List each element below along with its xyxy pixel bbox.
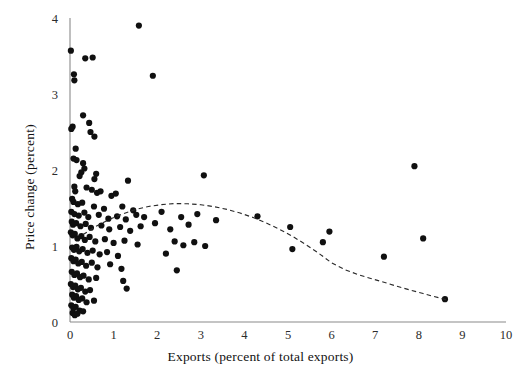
data-point	[89, 187, 95, 193]
data-point	[74, 311, 80, 317]
scatter-plot-figure: 01234 012345678910 Exports (percent of t…	[0, 0, 521, 379]
data-point	[91, 298, 97, 304]
data-point	[134, 241, 140, 247]
data-point	[127, 228, 133, 234]
y-tick-label: 1	[52, 240, 58, 254]
y-tick-label: 0	[52, 316, 58, 330]
x-tick-label: 9	[459, 328, 465, 342]
data-point	[287, 224, 293, 230]
data-point	[79, 200, 85, 206]
data-point	[85, 214, 91, 220]
data-point	[138, 223, 144, 229]
data-point	[87, 234, 93, 240]
data-point	[167, 226, 173, 232]
y-axis-tick-labels: 01234	[52, 12, 59, 330]
data-point	[115, 253, 121, 259]
data-point	[124, 285, 130, 291]
x-tick-label: 0	[67, 328, 73, 342]
data-point	[80, 160, 86, 166]
data-point	[381, 254, 387, 260]
data-point	[68, 126, 74, 132]
data-point	[202, 243, 208, 249]
data-point	[93, 275, 99, 281]
data-point	[172, 238, 178, 244]
x-axis-tick-labels: 012345678910	[67, 328, 512, 342]
x-tick-label: 2	[154, 328, 160, 342]
y-tick-label: 4	[52, 12, 59, 26]
data-point	[326, 228, 332, 234]
data-point	[185, 222, 191, 228]
data-point	[96, 212, 102, 218]
x-axis-title: Exports (percent of total exports)	[0, 349, 521, 365]
data-point	[71, 77, 77, 83]
data-point	[80, 308, 86, 314]
data-point	[68, 48, 74, 54]
data-point	[174, 267, 180, 273]
x-tick-label: 8	[416, 328, 422, 342]
data-point	[117, 224, 123, 230]
data-point	[93, 171, 99, 177]
data-point	[82, 55, 88, 61]
data-point	[76, 213, 82, 219]
data-points-layer	[68, 23, 448, 319]
x-tick-label: 10	[500, 328, 513, 342]
data-point	[125, 178, 131, 184]
data-point	[152, 220, 158, 226]
data-point	[73, 146, 79, 152]
data-point	[104, 249, 110, 255]
data-point	[86, 276, 92, 282]
data-point	[90, 54, 96, 60]
data-point	[97, 251, 103, 257]
y-tick-label: 2	[52, 164, 58, 178]
data-point	[191, 239, 197, 245]
data-point	[320, 239, 326, 245]
data-point	[98, 222, 104, 228]
data-point	[107, 261, 113, 267]
x-tick-label: 5	[285, 328, 291, 342]
data-point	[106, 226, 112, 232]
data-point	[76, 173, 82, 179]
data-point	[119, 203, 125, 209]
data-point	[80, 112, 86, 118]
data-point	[113, 190, 119, 196]
data-point	[201, 172, 207, 178]
data-point	[136, 23, 142, 29]
plot-canvas: 01234 012345678910	[0, 0, 521, 379]
data-point	[123, 216, 129, 222]
data-point	[91, 176, 97, 182]
data-point	[91, 133, 97, 139]
data-point	[91, 203, 97, 209]
data-point	[121, 238, 127, 244]
data-point	[158, 209, 164, 215]
data-point	[141, 214, 147, 220]
x-tick-label: 4	[241, 328, 248, 342]
data-point	[72, 188, 78, 194]
data-point	[178, 214, 184, 220]
data-point	[89, 260, 95, 266]
data-point	[83, 221, 89, 227]
data-point	[163, 251, 169, 257]
data-point	[87, 287, 93, 293]
data-point	[420, 235, 426, 241]
y-tick-label: 3	[52, 88, 58, 102]
data-point	[80, 273, 86, 279]
data-point	[289, 246, 295, 252]
data-point	[111, 240, 117, 246]
data-point	[118, 266, 124, 272]
y-axis-title: Price change (percent)	[22, 124, 38, 250]
data-point	[83, 299, 89, 305]
data-point	[213, 217, 219, 223]
x-tick-label: 6	[328, 328, 334, 342]
data-point	[180, 242, 186, 248]
data-point	[411, 163, 417, 169]
data-point	[133, 212, 139, 218]
data-point	[86, 120, 92, 126]
data-point	[92, 238, 98, 244]
quadratic-fit-curve	[83, 204, 446, 300]
x-tick-label: 3	[198, 328, 204, 342]
data-point	[90, 247, 96, 253]
data-point	[120, 278, 126, 284]
data-point	[71, 71, 77, 77]
data-point	[83, 263, 89, 269]
x-tick-label: 1	[110, 328, 116, 342]
